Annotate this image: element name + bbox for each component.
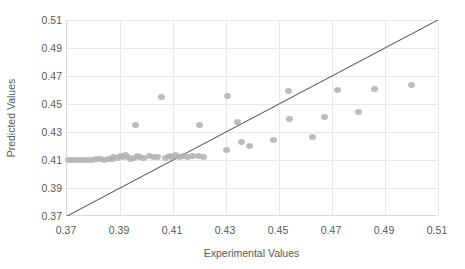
gridline-horizontal — [67, 20, 438, 21]
scatter-chart: Predicted Values 0.370.390.410.430.450.4… — [0, 0, 465, 269]
gridline-horizontal — [67, 160, 438, 161]
x-tick-label: 0.45 — [248, 224, 308, 236]
y-tick-label: 0.51 — [22, 15, 62, 25]
y-tick-label: 0.41 — [22, 155, 62, 165]
y-tick-label: 0.45 — [22, 99, 62, 109]
data-point — [270, 137, 277, 143]
data-point — [234, 119, 241, 125]
data-point — [309, 134, 316, 140]
parity-line — [67, 20, 438, 216]
data-point — [223, 147, 230, 153]
x-tick-label: 0.49 — [354, 224, 414, 236]
y-axis-label: Predicted Values — [5, 79, 17, 158]
data-point — [132, 122, 139, 128]
data-point — [321, 114, 328, 120]
x-tick-label: 0.43 — [195, 224, 255, 236]
gridline-vertical — [279, 20, 280, 216]
y-tick-label: 0.49 — [22, 43, 62, 53]
gridline-vertical — [438, 20, 439, 216]
gridline-horizontal — [67, 132, 438, 133]
data-point — [224, 93, 231, 99]
data-point — [158, 94, 165, 100]
data-point — [285, 88, 292, 94]
gridline-horizontal — [67, 188, 438, 189]
y-axis-label-container: Predicted Values — [0, 0, 22, 236]
data-point — [355, 109, 362, 115]
gridline-vertical — [120, 20, 121, 216]
y-tick-label: 0.47 — [22, 71, 62, 81]
gridline-vertical — [173, 20, 174, 216]
data-point — [286, 116, 293, 122]
data-point — [238, 139, 245, 145]
x-tick-label: 0.37 — [36, 224, 96, 236]
data-point — [408, 82, 415, 88]
data-point — [246, 143, 253, 149]
data-point — [371, 86, 378, 92]
y-tick-label: 0.43 — [22, 127, 62, 137]
y-tick-label: 0.37 — [22, 211, 62, 221]
gridline-horizontal — [67, 76, 438, 77]
plot-area — [66, 20, 437, 216]
gridline-vertical — [385, 20, 386, 216]
x-tick-label: 0.51 — [407, 224, 465, 236]
gridline-vertical — [226, 20, 227, 216]
gridline-vertical — [332, 20, 333, 216]
data-point — [196, 122, 203, 128]
x-axis-label: Experimental Values — [204, 247, 300, 259]
x-axis-label-container: Experimental Values — [66, 243, 437, 261]
gridline-horizontal — [67, 104, 438, 105]
x-tick-label: 0.41 — [142, 224, 202, 236]
gridline-horizontal — [67, 48, 438, 49]
x-tick-label: 0.47 — [301, 224, 361, 236]
x-tick-label: 0.39 — [89, 224, 149, 236]
data-point — [154, 154, 161, 160]
data-point — [334, 87, 341, 93]
y-tick-label: 0.39 — [22, 183, 62, 193]
